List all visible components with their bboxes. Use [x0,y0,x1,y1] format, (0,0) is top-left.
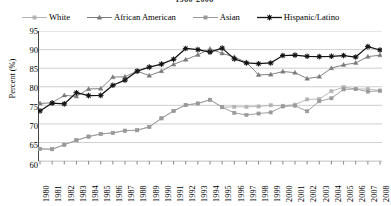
y-tick-80: 80 [17,84,38,93]
square-marker-icon [172,109,175,112]
y-tick-90: 90 [17,46,38,55]
square-marker-icon [123,129,126,132]
square-marker-icon [135,129,138,132]
square-marker-icon [257,105,260,108]
star-marker-icon [146,64,152,70]
x-tick-1986: 1986 [116,185,124,202]
y-tick-75: 75 [17,103,38,112]
square-marker-icon [184,103,187,106]
chart-title: 1980-2008 [0,0,389,2]
star-marker-icon [256,61,262,67]
star-marker-icon [74,90,80,96]
x-tick-1999: 1999 [274,185,282,202]
x-tick-1995: 1995 [225,185,233,202]
square-marker-icon [233,105,236,108]
x-tick-2005: 2005 [347,185,355,202]
square-marker-icon [87,135,90,138]
star-marker-icon [365,44,371,50]
star-marker-icon [266,14,272,20]
square-marker-icon [196,102,199,105]
square-marker-icon [193,13,218,22]
x-tick-1987: 1987 [128,185,136,202]
square-marker-icon [245,113,248,116]
square-marker-icon [33,15,36,18]
series-line [40,87,380,149]
star-marker-icon [61,101,67,107]
y-tick-70: 70 [17,122,38,131]
star-marker-icon [207,49,213,55]
square-marker-icon [378,89,381,92]
square-marker-icon [99,132,102,135]
square-marker-icon [366,90,369,93]
y-tick-60: 60 [17,161,38,170]
square-marker-icon [330,97,333,100]
square-marker-icon [148,125,151,128]
star-marker-icon [195,47,201,53]
x-tick-1993: 1993 [201,185,209,202]
x-tick-1980: 1980 [43,185,51,202]
legend-label: Asian [220,13,240,22]
x-tick-1981: 1981 [55,185,63,202]
legend-item-african-american[interactable]: African American [87,13,176,22]
legend-item-white[interactable]: White [22,13,70,22]
star-marker-icon [377,47,382,53]
square-marker-icon [75,139,78,142]
square-marker-icon [208,98,211,101]
legend-key-svg [22,13,47,22]
x-tick-2007: 2007 [371,185,379,202]
square-marker-icon [233,111,236,114]
legend-key-svg [193,13,218,22]
x-tick-1984: 1984 [92,185,100,202]
star-marker-icon [304,53,310,59]
star-marker-icon [98,92,104,98]
x-tick-1991: 1991 [177,185,185,202]
x-tick-1982: 1982 [68,185,76,202]
triangle-marker-icon [87,13,112,22]
chart-legend: WhiteAfrican AmericanAsianHispanic/Latin… [22,10,372,24]
x-tick-1985: 1985 [104,185,112,202]
square-marker-icon [50,148,53,151]
x-tick-2000: 2000 [286,185,294,202]
plot-area [38,31,382,165]
square-marker-icon [330,90,333,93]
star-marker-icon [159,61,165,67]
square-marker-icon [245,105,248,108]
star-marker-icon [110,82,116,88]
series-hispanic-latino [38,44,382,114]
x-tick-2001: 2001 [298,185,306,202]
star-marker-icon [280,53,286,59]
triangle-marker-icon [281,69,286,73]
square-marker-icon [257,112,260,115]
square-marker-icon [269,111,272,114]
y-tick-95: 95 [17,27,38,36]
legend-item-asian[interactable]: Asian [193,13,240,22]
y-axis-tick-labels: 9590858075706560 [17,24,38,172]
legend-key-svg [87,13,112,22]
square-marker-icon [22,13,47,22]
x-tick-1983: 1983 [80,185,88,202]
star-marker-icon [171,56,177,62]
y-tick-65: 65 [17,141,38,150]
square-marker-icon [63,143,66,146]
x-tick-1992: 1992 [189,185,197,202]
x-tick-1988: 1988 [140,185,148,202]
plot-svg [38,31,382,165]
y-axis-title: Percent (%) [8,48,17,110]
square-marker-icon [305,110,308,113]
square-marker-icon [354,87,357,90]
star-marker-icon [183,46,189,52]
x-tick-2006: 2006 [359,185,367,202]
square-marker-icon [269,104,272,107]
legend-label: White [49,13,70,22]
legend-label: African American [114,13,176,22]
star-marker-icon [86,93,92,99]
square-marker-icon [293,104,296,107]
star-marker-icon [292,52,298,58]
x-tick-2004: 2004 [335,185,343,202]
square-marker-icon [111,131,114,134]
x-tick-1994: 1994 [213,185,221,202]
square-marker-icon [220,106,223,109]
star-marker-icon [341,53,347,59]
legend-item-hispanic-latino[interactable]: Hispanic/Latino [257,13,339,22]
